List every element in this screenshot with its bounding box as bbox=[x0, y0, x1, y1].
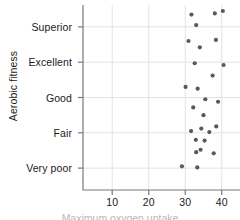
data-point bbox=[183, 85, 187, 89]
data-point bbox=[195, 165, 199, 169]
data-point bbox=[189, 12, 193, 16]
data-point bbox=[194, 23, 198, 27]
data-point bbox=[214, 38, 218, 42]
data-point bbox=[202, 138, 206, 142]
data-point bbox=[221, 63, 225, 67]
data-point bbox=[194, 150, 198, 154]
data-point bbox=[201, 113, 205, 117]
data-point bbox=[186, 39, 190, 43]
data-point bbox=[211, 74, 215, 78]
data-point bbox=[194, 138, 198, 142]
data-point bbox=[207, 130, 211, 134]
grid-lines bbox=[83, 5, 240, 190]
data-point bbox=[199, 126, 203, 130]
data-point bbox=[198, 148, 202, 152]
data-point bbox=[189, 129, 193, 133]
data-point bbox=[216, 100, 220, 104]
data-point bbox=[180, 164, 184, 168]
data-point bbox=[212, 151, 216, 155]
data-point bbox=[214, 124, 218, 128]
data-point bbox=[221, 9, 225, 13]
data-point bbox=[196, 87, 200, 91]
data-point-series bbox=[180, 9, 226, 170]
data-point bbox=[198, 45, 202, 49]
scatter-plot-figure: Aerobic fitness Very poorFairGoodExcelle… bbox=[0, 0, 240, 220]
data-point bbox=[191, 105, 195, 109]
data-point bbox=[203, 97, 207, 101]
plot-canvas bbox=[0, 0, 240, 220]
data-point bbox=[213, 11, 217, 15]
data-point bbox=[193, 61, 197, 65]
axis-tick-marks bbox=[78, 27, 222, 195]
